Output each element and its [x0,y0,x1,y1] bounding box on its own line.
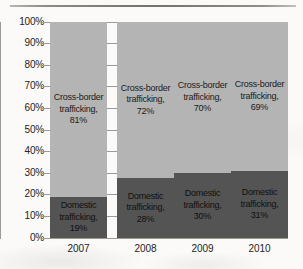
bar-label-value: 69% [251,102,268,114]
bar-label-line1: Domestic [128,191,164,203]
x-tick-label-2010: 2010 [231,243,288,254]
bar-group-2009[interactable]: Cross-border trafficking, 70% Domestic t… [174,22,231,238]
bar-label-line2: trafficking, [127,202,165,214]
bar-segment-domestic-2010[interactable]: Domestic trafficking, 31% [231,171,288,238]
bar-label-line1: Cross-border [54,92,104,104]
y-tick-label-80: 80% [6,60,44,70]
x-tick-label-2009: 2009 [174,243,231,254]
x-tick-label-2007: 2007 [50,243,107,254]
y-tick-label-90: 90% [6,38,44,48]
bar-label-line1: Domestic [61,200,97,212]
y-tick-label-100: 100% [6,17,44,27]
bar-group-2010[interactable]: Cross-border trafficking, 69% Domestic t… [231,22,288,238]
bar-segment-domestic-2008[interactable]: Domestic trafficking, 28% [117,178,174,238]
bar-segment-cross-border-2009[interactable]: Cross-border trafficking, 70% [174,22,231,173]
bar-group-2008[interactable]: Cross-border trafficking, 72% Domestic t… [117,22,174,238]
y-tick-label-70: 70% [6,81,44,91]
bar-label-value: 81% [70,115,87,127]
bar-label-line1: Domestic [185,188,221,200]
bar-label-value: 19% [70,223,87,235]
bar-label-value: 31% [251,210,268,222]
y-tick-label-40: 40% [6,146,44,156]
bar-label-line1: Domestic [242,187,278,199]
bar-label-line2: trafficking, [184,92,222,104]
bar-label-value: 70% [194,103,211,115]
bar-segment-cross-border-2008[interactable]: Cross-border trafficking, 72% [117,22,174,178]
bar-label-line1: Cross-border [178,80,228,92]
bar-segment-cross-border-2007[interactable]: Cross-border trafficking, 81% [50,22,107,197]
y-tick-label-20: 20% [6,189,44,199]
y-tick-label-0: 0% [6,233,44,243]
bar-label-line2: trafficking, [127,94,165,106]
bar-group-2007[interactable]: Cross-border trafficking, 81% Domestic t… [50,22,107,238]
bar-label-line2: trafficking, [241,91,279,103]
bar-label-value: 28% [137,214,154,226]
bar-label-line1: Cross-border [235,79,285,91]
bar-label-line2: trafficking, [241,199,279,211]
y-tick-label-50: 50% [6,125,44,135]
y-tick-label-30: 30% [6,168,44,178]
bar-label-line2: trafficking, [60,212,98,224]
bar-label-line2: trafficking, [60,104,98,116]
bar-segment-domestic-2007[interactable]: Domestic trafficking, 19% [50,197,107,238]
bar-segment-cross-border-2010[interactable]: Cross-border trafficking, 69% [231,22,288,171]
y-axis-line [0,22,1,239]
bar-label-line1: Cross-border [121,83,171,95]
y-axis: 100% 90% 80% 70% 60% 50% 40% 30% 20% 10%… [2,0,44,269]
x-tick-label-2008: 2008 [117,243,174,254]
bar-label-line2: trafficking, [184,200,222,212]
plot-area: Cross-border trafficking, 81% Domestic t… [47,22,288,238]
bar-label-value: 30% [194,211,211,223]
bar-segment-domestic-2009[interactable]: Domestic trafficking, 30% [174,173,231,238]
y-tick-label-60: 60% [6,103,44,113]
y-tick-label-10: 10% [6,211,44,221]
bar-label-value: 72% [137,106,154,118]
gridline-0 [47,238,288,239]
stacked-bar-chart: 100% 90% 80% 70% 60% 50% 40% 30% 20% 10%… [0,0,303,269]
